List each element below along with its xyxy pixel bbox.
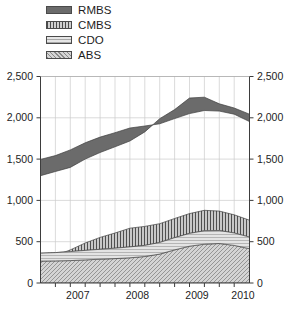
- y-axis-right-ticks: [250, 77, 254, 284]
- xtick-2007: 2007: [66, 289, 90, 301]
- ytick-left-2500: 2,500: [7, 70, 33, 82]
- y-axis-left-labels: 0 500 1,000 1,500 2,000 2,500: [7, 70, 33, 289]
- ytick-left-2000: 2,000: [7, 111, 33, 123]
- stacked-area-chart: RMBS CMBS CDO ABS: [0, 0, 298, 312]
- ytick-right-2000: 2,000: [257, 111, 283, 123]
- ytick-left-1000: 1,000: [7, 194, 33, 206]
- xtick-2010: 2010: [231, 289, 255, 301]
- xtick-2008: 2008: [126, 289, 150, 301]
- ytick-right-0: 0: [257, 277, 263, 289]
- x-axis-labels: 2007 2008 2009 2010: [66, 289, 255, 301]
- ytick-left-0: 0: [27, 277, 33, 289]
- y-axis-right-labels: 0 500 1,000 1,500 2,000 2,500: [257, 70, 283, 289]
- ytick-left-500: 500: [15, 235, 33, 247]
- ytick-right-1000: 1,000: [257, 194, 283, 206]
- ytick-right-2500: 2,500: [257, 70, 283, 82]
- ytick-left-1500: 1,500: [7, 153, 33, 165]
- xtick-2009: 2009: [185, 289, 209, 301]
- y-axis-left-ticks: [37, 77, 41, 284]
- ytick-right-1500: 1,500: [257, 153, 283, 165]
- ytick-right-500: 500: [257, 235, 275, 247]
- x-axis-ticks: [55, 283, 234, 287]
- chart-plot-svg: 0 500 1,000 1,500 2,000 2,500 0 500 1,00…: [0, 0, 298, 312]
